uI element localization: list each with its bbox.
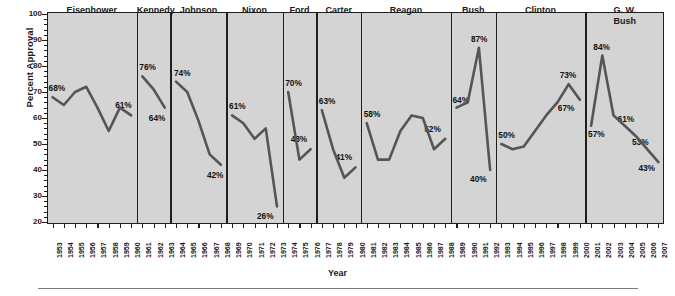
- x-tick-label: 1971: [258, 242, 265, 258]
- x-tick-label: 1955: [78, 242, 85, 258]
- plot-area: [47, 12, 664, 224]
- president-band-label: Johnson: [170, 5, 226, 16]
- x-tick-mark: [109, 224, 110, 228]
- y-minor-tick: [44, 134, 48, 135]
- president-divider: [283, 12, 284, 224]
- y-tick-mark: [42, 170, 47, 171]
- x-tick-label: 1965: [190, 242, 197, 258]
- x-tick-label: 1984: [403, 242, 410, 258]
- x-tick-mark: [647, 224, 648, 228]
- x-tick-mark: [165, 224, 166, 228]
- data-point-label: 84%: [593, 43, 610, 51]
- data-point-label: 64%: [452, 96, 469, 104]
- x-tick-mark: [591, 224, 592, 228]
- data-point-label: 63%: [319, 97, 336, 105]
- x-tick-mark: [490, 224, 491, 228]
- x-tick-label: 1980: [359, 242, 366, 258]
- president-band-label: G. W.Bush: [585, 5, 664, 26]
- x-tick-mark: [400, 224, 401, 228]
- y-minor-tick: [44, 82, 48, 83]
- y-axis-title: Percent Approval: [24, 0, 35, 153]
- data-point-label: 41%: [336, 153, 353, 161]
- data-point-label: 68%: [49, 84, 66, 92]
- x-tick-label: 1976: [314, 242, 321, 258]
- data-point-label: 74%: [174, 69, 191, 77]
- y-tick-mark: [42, 118, 47, 119]
- x-tick-label: 1962: [157, 242, 164, 258]
- x-tick-mark: [344, 224, 345, 228]
- x-tick-mark: [120, 224, 121, 228]
- x-tick-label: 1983: [392, 242, 399, 258]
- president-band-label: Eisenhower: [47, 5, 137, 16]
- x-tick-mark: [154, 224, 155, 228]
- y-tick-label: 80: [0, 62, 42, 70]
- x-tick-label: 1954: [67, 242, 74, 258]
- x-tick-label: 1960: [134, 242, 141, 258]
- x-tick-mark: [266, 224, 267, 228]
- x-tick-mark: [412, 224, 413, 228]
- x-tick-mark: [434, 224, 435, 228]
- x-tick-label: 1957: [100, 242, 107, 258]
- x-tick-mark: [187, 224, 188, 228]
- data-point-label: 26%: [257, 212, 274, 220]
- data-point-label: 52%: [424, 125, 441, 133]
- data-point-label: 61%: [229, 102, 246, 110]
- x-tick-label: 1997: [549, 242, 556, 258]
- data-point-label: 57%: [588, 130, 605, 138]
- y-minor-tick: [44, 87, 48, 88]
- x-tick-label: 1990: [471, 242, 478, 258]
- x-tick-mark: [86, 224, 87, 228]
- x-tick-mark: [97, 224, 98, 228]
- x-tick-mark: [322, 224, 323, 228]
- x-tick-label: 1999: [572, 242, 579, 258]
- x-tick-mark: [232, 224, 233, 228]
- x-tick-label: 2001: [594, 242, 601, 258]
- x-tick-mark: [277, 224, 278, 228]
- x-tick-mark: [636, 224, 637, 228]
- data-point-label: 64%: [149, 114, 166, 122]
- y-minor-tick: [44, 45, 48, 46]
- x-tick-mark: [299, 224, 300, 228]
- x-tick-label: 1974: [291, 242, 298, 258]
- x-tick-mark: [658, 224, 659, 228]
- x-tick-label: 1992: [493, 242, 500, 258]
- data-point-label: 42%: [207, 171, 224, 179]
- x-tick-mark: [557, 224, 558, 228]
- y-minor-tick: [44, 201, 48, 202]
- y-minor-tick: [44, 76, 48, 77]
- x-tick-mark: [580, 224, 581, 228]
- y-tick-label: 30: [0, 192, 42, 200]
- x-tick-label: 2004: [628, 242, 635, 258]
- x-tick-mark: [64, 224, 65, 228]
- footer-rule: [38, 288, 638, 289]
- x-tick-mark: [535, 224, 536, 228]
- y-tick-mark: [42, 66, 47, 67]
- x-tick-mark: [367, 224, 368, 228]
- president-divider: [361, 12, 362, 224]
- y-minor-tick: [44, 128, 48, 129]
- y-minor-tick: [44, 139, 48, 140]
- y-minor-tick: [44, 30, 48, 31]
- x-tick-mark: [423, 224, 424, 228]
- y-minor-tick: [44, 212, 48, 213]
- x-tick-mark: [479, 224, 480, 228]
- y-minor-tick: [44, 24, 48, 25]
- y-minor-tick: [44, 165, 48, 166]
- data-point-label: 73%: [560, 71, 577, 79]
- x-tick-label: 1956: [89, 242, 96, 258]
- y-tick-label: 20: [0, 218, 42, 226]
- x-tick-mark: [333, 224, 334, 228]
- president-band-label: Bush: [451, 5, 496, 16]
- y-tick-mark: [42, 144, 47, 145]
- y-minor-tick: [44, 113, 48, 114]
- president-band-label: Nixon: [226, 5, 282, 16]
- president-divider: [226, 12, 227, 224]
- x-tick-label: 2006: [650, 242, 657, 258]
- x-tick-label: 1987: [437, 242, 444, 258]
- president-divider: [137, 12, 138, 224]
- x-tick-mark: [356, 224, 357, 228]
- data-point-label: 43%: [638, 164, 655, 172]
- x-tick-label: 1991: [482, 242, 489, 258]
- y-minor-tick: [44, 206, 48, 207]
- president-band-label: Clinton: [496, 5, 586, 16]
